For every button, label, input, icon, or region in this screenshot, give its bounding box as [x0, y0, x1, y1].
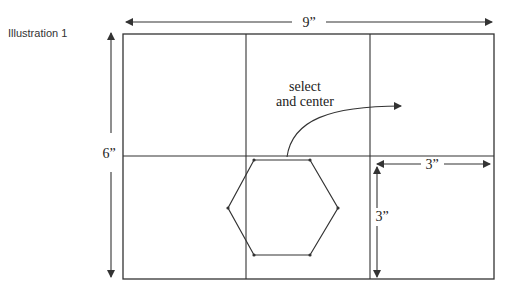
- annotation-line-1: select: [289, 79, 321, 94]
- cell-width-label: 3”: [425, 157, 438, 172]
- height-dimension-arrow: 6”: [102, 33, 115, 277]
- annotation-line-2: and center: [276, 94, 334, 109]
- height-label: 6”: [102, 146, 115, 161]
- cell-width-dimension-arrow: 3”: [377, 157, 490, 172]
- hexagon-shape: [226, 158, 339, 256]
- illustration-caption: Illustration 1: [8, 27, 67, 39]
- cell-height-label: 3”: [375, 209, 388, 224]
- width-label: 9”: [302, 15, 315, 30]
- curved-arrow-icon: [287, 106, 401, 157]
- cell-height-dimension-arrow: 3”: [375, 167, 388, 277]
- illustration-diagram: Illustration 1 9” 6” select and center 3…: [0, 0, 518, 298]
- width-dimension-arrow: 9”: [126, 15, 492, 30]
